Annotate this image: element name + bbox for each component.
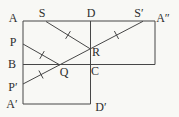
label-C: C <box>91 65 99 77</box>
label-B: B <box>8 58 16 70</box>
tick-on-P-Q <box>40 51 45 59</box>
label-A: A <box>9 12 18 24</box>
tick-on-Pprime-Q <box>39 71 43 79</box>
label-S: S <box>39 7 46 19</box>
rectangle-edges <box>23 21 155 104</box>
label-D-prime: D′ <box>95 101 106 113</box>
tick-on-S-R <box>66 31 71 39</box>
label-P: P <box>10 36 17 48</box>
label-S-prime: S′ <box>134 7 143 19</box>
label-Q: Q <box>60 66 69 78</box>
label-P-prime: P′ <box>8 81 17 93</box>
tick-on-R-Sprime <box>114 31 118 39</box>
label-D: D <box>87 7 96 19</box>
label-A-prime: A′ <box>6 98 17 110</box>
label-R: R <box>92 46 100 58</box>
geometry-diagram: ASDS′A″PRBQCP′A′D′ <box>0 0 179 117</box>
fold-line-P-Q <box>23 44 60 65</box>
label-A-double-prime: A″ <box>156 12 170 24</box>
